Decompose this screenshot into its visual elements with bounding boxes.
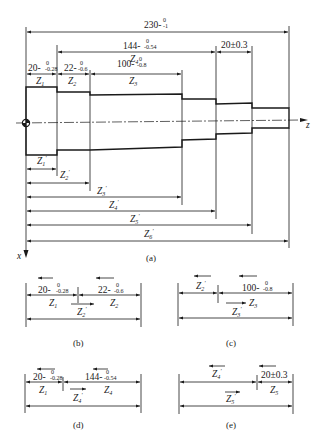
figure-a: x z 230- 0 -1 [16,17,310,263]
svg-text:-1: -1 [163,23,168,29]
centerline [16,120,302,123]
svg-text:Z5: Z5 [270,385,278,396]
caption-b: (b) [73,338,84,348]
dim-z2-value: 22- [64,63,77,73]
svg-text:Z1: Z1 [49,298,57,309]
svg-text:Z2′: Z2′ [196,280,206,292]
figure-e: Z4′ 20±0.3 Z5 Z5′ (e) [179,366,293,430]
stepped-shaft [26,87,289,155]
svg-text:-0.28: -0.28 [56,288,69,294]
x-axis-arrow-icon [24,250,29,258]
dim-overall-value: 230- [144,20,161,30]
label-z5-prime: Z5′ [130,213,140,225]
svg-text:Z2′: Z2′ [77,306,87,318]
label-z6-prime: Z6′ [144,228,154,240]
dim-z5-value: 20±0.3 [221,40,248,50]
label-z1: Z1 [36,76,44,87]
svg-text:Z4′: Z4′ [73,392,83,404]
dim-z4-value: 144- [123,41,140,51]
dim-z1-value: 20- [28,63,41,73]
svg-text:Z3′: Z3′ [232,306,242,318]
label-z4-prime: Z4′ [109,199,119,211]
dimension-chain-diagram: x z 230- 0 -1 [0,0,321,446]
label-z1-prime: Z1′ [37,155,47,167]
label-z3: Z3 [129,76,137,87]
svg-text:-0.28: -0.28 [45,66,58,72]
svg-text:Z1: Z1 [39,385,47,396]
svg-text:22-: 22- [98,285,111,295]
svg-text:-0.6: -0.6 [114,288,124,294]
svg-text:144-: 144- [85,372,102,382]
svg-text:20-: 20- [38,285,51,295]
svg-text:Z5′: Z5′ [226,393,236,405]
svg-text:-0.8: -0.8 [137,62,147,68]
caption-d: (d) [73,420,84,430]
label-z3-prime: Z3′ [97,185,107,197]
svg-text:-0.28: -0.28 [50,375,63,381]
svg-text:100-: 100- [242,283,259,293]
svg-text:Z2: Z2 [110,298,118,309]
label-z2-prime: Z2′ [60,169,70,181]
svg-text:-0.54: -0.54 [104,375,117,381]
caption-c: (c) [226,338,236,348]
dim-z3-value: 100- [117,59,134,69]
x-axis-label: x [16,251,22,261]
svg-text:20-: 20- [33,372,46,382]
svg-text:Z4′: Z4′ [212,368,222,380]
label-z2: Z2 [68,76,76,87]
svg-text:Z4: Z4 [104,385,112,396]
svg-text:-0.8: -0.8 [263,286,273,292]
z-axis-label: z [305,120,310,130]
caption-a: (a) [146,253,156,263]
figure-c: Z2′ 100- 0 -0.8 Z3 Z3′ (c) [178,276,293,348]
svg-text:-0.6: -0.6 [78,66,88,72]
svg-text:Z3: Z3 [249,298,257,309]
figure-b: 20- 0 -0.28 22- 0 -0.6 Z1 Z2 Z2′ (b) [26,278,141,348]
svg-text:20±0.3: 20±0.3 [261,370,288,380]
figure-d: 20- 0 -0.28 144- 0 -0.54 Z1 Z4 Z4′ (d) [25,369,141,430]
svg-text:-0.54: -0.54 [144,44,157,50]
caption-e: (e) [226,420,236,430]
